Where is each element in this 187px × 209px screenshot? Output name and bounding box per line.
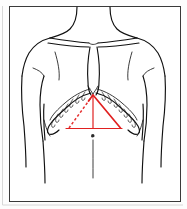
- panel-surface: [9, 6, 181, 202]
- anatomy-illustration-svg: Anterior thorax line drawing with red ca…: [0, 0, 187, 209]
- anatomy-figure-root: Anterior thorax line drawing with red ca…: [0, 0, 187, 209]
